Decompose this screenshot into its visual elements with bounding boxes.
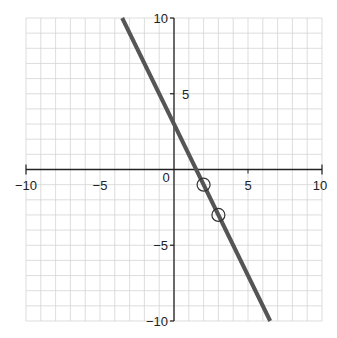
x-tick-label: 10 — [313, 178, 327, 193]
y-tick-label: −10 — [146, 314, 168, 329]
y-tick-label: −5 — [153, 238, 168, 253]
y-tick-label: 5 — [182, 87, 189, 102]
y-tick-label: 10 — [154, 11, 168, 26]
line-graph: −10−50510−10−5510 — [0, 0, 337, 338]
x-tick-label: −5 — [93, 178, 108, 193]
x-tick-label: −10 — [15, 178, 37, 193]
x-tick-label: 0 — [162, 170, 169, 185]
x-tick-label: 5 — [244, 178, 251, 193]
